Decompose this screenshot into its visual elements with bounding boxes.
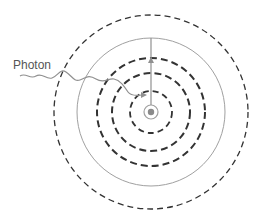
nucleus — [148, 109, 154, 115]
photon-wave — [20, 71, 142, 95]
atom-diagram: Photon — [0, 0, 262, 219]
photon-label: Photon — [13, 58, 51, 72]
